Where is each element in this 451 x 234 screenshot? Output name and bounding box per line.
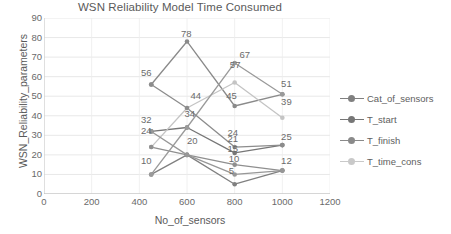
data-label: 67 [239, 50, 250, 60]
data-label: 5 [229, 166, 234, 176]
data-label: 32 [141, 115, 152, 125]
x-tick-label: 800 [218, 196, 252, 207]
y-tick-label: 30 [20, 130, 42, 139]
data-label: 51 [281, 79, 292, 89]
legend-marker-icon [340, 136, 364, 146]
y-tick-label: 10 [20, 169, 42, 178]
legend-marker-icon [340, 157, 364, 167]
x-axis-title: No_of_sensors [45, 214, 335, 226]
chart-container: WSN Reliability Model Time Consumed WSN_… [0, 0, 451, 234]
y-tick-label: 40 [20, 111, 42, 120]
legend-item-cat-of-sensors[interactable]: Cat_of_sensors [340, 88, 451, 109]
chart-title: WSN Reliability Model Time Consumed [55, 1, 305, 13]
data-label: 45 [226, 91, 237, 101]
data-label: 20 [187, 136, 198, 146]
legend-item-t-time-cons[interactable]: T_time_cons [340, 151, 451, 172]
data-point [185, 153, 190, 158]
x-tick-label: 400 [122, 196, 156, 207]
x-tick-label: 1200 [313, 196, 347, 207]
data-label: 44 [191, 91, 202, 101]
series-line-5 [151, 63, 282, 174]
legend-item-t-finish[interactable]: T_finish [340, 130, 451, 151]
x-tick-label: 0 [27, 196, 61, 207]
y-tick-label: 70 [20, 52, 42, 61]
data-label: 39 [281, 97, 292, 107]
data-label: 57 [230, 60, 241, 70]
data-point [185, 39, 190, 44]
data-label: 78 [181, 29, 192, 39]
x-axis-tick-labels: 020040060080010001200 [0, 196, 451, 212]
legend-label: Cat_of_sensors [367, 93, 434, 104]
legend-marker-icon [340, 94, 364, 104]
y-tick-label: 60 [20, 72, 42, 81]
x-tick-label: 600 [170, 196, 204, 207]
data-point [149, 145, 154, 150]
data-label: 24 [141, 126, 152, 136]
legend-label: T_start [367, 114, 397, 125]
data-point [185, 125, 190, 130]
y-tick-label: 80 [20, 33, 42, 42]
data-point [149, 82, 154, 87]
data-point [232, 104, 237, 109]
data-label: 10 [141, 156, 152, 166]
y-tick-label: 20 [20, 150, 42, 159]
x-tick-label: 1000 [265, 196, 299, 207]
y-axis-tick-labels: 0102030405060708090 [16, 0, 42, 212]
legend-label: T_finish [367, 135, 400, 146]
legend-item-t-start[interactable]: T_start [340, 109, 451, 130]
data-label: 34 [185, 109, 196, 119]
y-tick-label: 90 [20, 13, 42, 22]
series-line-0 [151, 155, 282, 184]
data-point [280, 168, 285, 173]
chart-legend: Cat_of_sensorsT_startT_finishT_time_cons [340, 88, 451, 172]
x-tick-label: 200 [75, 196, 109, 207]
data-point [280, 115, 285, 120]
data-label: 12 [281, 156, 292, 166]
data-label: 56 [141, 68, 152, 78]
data-label: 25 [281, 132, 292, 142]
series-line-3 [151, 83, 282, 148]
y-tick-label: 50 [20, 91, 42, 100]
legend-label: T_time_cons [367, 156, 421, 167]
data-point [149, 172, 154, 177]
data-point [280, 143, 285, 148]
plot-area: 786756575145443934322524242120151210105 [44, 18, 330, 194]
legend-marker-icon [340, 115, 364, 125]
data-point [232, 182, 237, 187]
data-label: 10 [229, 154, 240, 164]
data-point [232, 80, 237, 85]
